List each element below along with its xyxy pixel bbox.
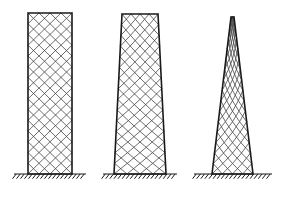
ground-hatch-tick (106, 174, 110, 179)
lattice-diagonal (116, 89, 162, 132)
lattice-diagonal (119, 67, 162, 110)
lattice-diagonal (117, 67, 160, 110)
ground-hatch-tick (205, 174, 209, 179)
ground-hatch-tick (266, 174, 270, 179)
ground-3 (193, 174, 272, 179)
lattice-diagonal (212, 132, 248, 174)
slightly-tapered-lattice-tower (102, 14, 177, 179)
ground-hatch-tick (209, 174, 213, 179)
ground-hatch-tick (13, 174, 17, 179)
sharply-tapered-triangular-lattice-tower-lattice (212, 17, 253, 174)
ground-hatch-tick (81, 174, 85, 179)
slightly-tapered-lattice-tower-outline (114, 14, 166, 174)
lattice-diagonal (217, 132, 253, 174)
ground-hatch-tick (110, 174, 114, 179)
prismatic-lattice-tower-lattice (28, 13, 72, 174)
lattice-diagonal (116, 99, 163, 142)
lattice-diagonal (117, 78, 162, 121)
lattice-diagonal (115, 110, 163, 153)
ground-hatch-tick (167, 174, 171, 179)
slightly-tapered-lattice-tower-lattice (114, 14, 166, 174)
ground-hatch-tick (73, 174, 77, 179)
ground-hatch-tick (197, 174, 201, 179)
lattice-diagonal (118, 89, 164, 132)
ground-hatch-tick (201, 174, 205, 179)
ground-hatch-tick (258, 174, 262, 179)
lattice-diagonal (117, 121, 166, 164)
ground-hatch-tick (25, 174, 29, 179)
ground-hatch-tick (77, 174, 81, 179)
ground-hatch-tick (171, 174, 175, 179)
ground-hatch-tick (21, 174, 25, 179)
sharply-tapered-triangular-lattice-tower-outline (212, 17, 253, 174)
lattice-diagonal (119, 78, 164, 121)
lattice-diagonal (115, 121, 164, 164)
tower-diagram-canvas (0, 0, 285, 198)
sharply-tapered-triangular-lattice-tower (193, 17, 272, 179)
lattice-tower-figure (0, 0, 285, 198)
lattice-diagonal (118, 99, 165, 142)
ground-hatch-tick (262, 174, 266, 179)
prismatic-lattice-tower-outline (28, 13, 72, 174)
lattice-diagonal (117, 110, 165, 153)
ground-hatch-tick (254, 174, 258, 179)
prismatic-lattice-tower (13, 13, 86, 179)
lattice-diagonal (116, 131, 166, 174)
ground-hatch-tick (193, 174, 197, 179)
ground-hatch-tick (102, 174, 106, 179)
ground-hatch-tick (17, 174, 21, 179)
lattice-diagonal (114, 131, 164, 174)
